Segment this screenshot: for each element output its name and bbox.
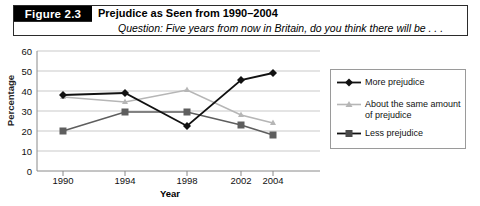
chart-legend: More prejudice About the same amount of … (330, 69, 466, 149)
legend-label-less-prejudice: Less prejudice (365, 128, 423, 139)
legend-item-more-prejudice[interactable]: More prejudice (336, 77, 425, 88)
legend-label-more-prejudice: More prejudice (365, 77, 425, 88)
series-about-the-same (60, 87, 276, 126)
legend-item-less-prejudice[interactable]: Less prejudice (336, 128, 423, 139)
legend-swatch-diamond-icon (336, 77, 362, 88)
figure-2-3: Figure 2.3 Prejudice as Seen from 1990–2… (0, 0, 480, 206)
legend-swatch-triangle-icon (336, 99, 362, 110)
series-less-prejudice (60, 109, 277, 139)
grid-lines (37, 51, 320, 151)
legend-swatch-square-icon (336, 128, 362, 139)
legend-label-about-the-same: About the same amount of prejudice (365, 99, 465, 120)
legend-item-about-the-same[interactable]: About the same amount of prejudice (336, 99, 465, 120)
axis-lines (37, 51, 320, 176)
